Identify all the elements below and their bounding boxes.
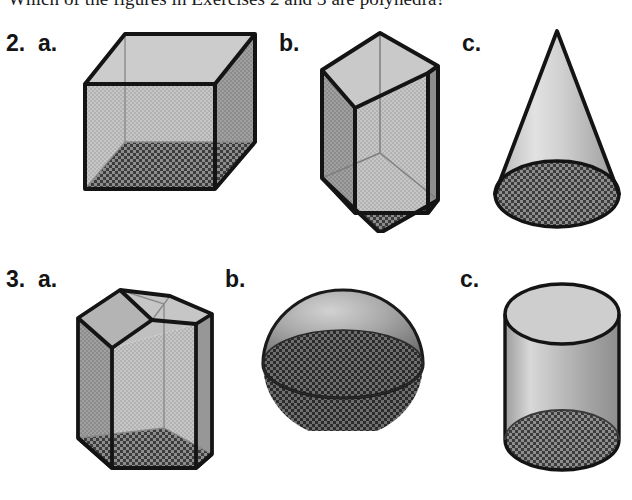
exercise-number-3: 3.: [6, 268, 25, 291]
part-label-3c: c.: [460, 268, 479, 291]
figure-3c-cylinder: [497, 280, 627, 485]
exercise-number-2: 2.: [6, 32, 25, 55]
part-label-3a: a.: [38, 268, 57, 291]
part-label-2c: c.: [462, 32, 481, 55]
figure-2b-pentagonal-prism: [310, 28, 450, 233]
part-label-2b: b.: [279, 32, 299, 55]
textbook-figure-page: Which of the figures in Exercises 2 and …: [0, 0, 632, 500]
part-label-3b: b.: [225, 268, 245, 291]
figure-3a-house-prism: [60, 276, 225, 491]
figure-2a-cube: [70, 24, 270, 224]
figure-3b-hemisphere: [258, 286, 428, 431]
figure-2c-cone: [487, 26, 627, 231]
part-label-2a: a.: [38, 32, 57, 55]
exercise-prompt: Which of the figures in Exercises 2 and …: [8, 0, 624, 10]
